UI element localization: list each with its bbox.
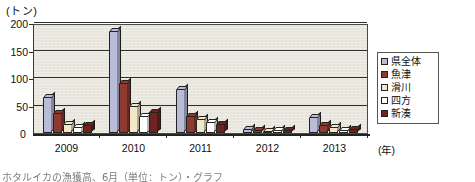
legend-item-四方[interactable]: 四方 — [381, 94, 435, 107]
bar-body — [186, 117, 195, 134]
legend-item-魚津[interactable]: 魚津 — [381, 68, 435, 81]
bar-body — [339, 131, 348, 133]
bar-新湊-2010[interactable] — [149, 113, 158, 133]
bar-body — [176, 90, 185, 133]
bar-body — [43, 98, 52, 133]
bar-body — [129, 107, 138, 133]
bar-group-2012 — [234, 25, 301, 133]
bar-四方-2012[interactable] — [273, 131, 282, 133]
bar-body — [139, 117, 148, 134]
x-tick-2011 — [167, 134, 234, 138]
bar-body — [53, 114, 62, 133]
legend-item-県全体[interactable]: 県全体 — [381, 55, 435, 68]
legend-label: 四方 — [391, 96, 411, 106]
bar-滑川-2010[interactable] — [129, 107, 138, 133]
bar-groups — [34, 25, 367, 133]
bar-body — [73, 128, 82, 134]
bar-新湊-2009[interactable] — [83, 126, 92, 133]
y-tick-mark-200 — [29, 24, 33, 25]
bar-body — [63, 125, 72, 133]
legend-item-滑川[interactable]: 滑川 — [381, 81, 435, 94]
legend-swatch-icon — [381, 97, 388, 104]
bar-魚津-2011[interactable] — [186, 117, 195, 134]
x-label-2013: 2013 — [301, 142, 368, 154]
bar-body — [263, 132, 272, 134]
bar-body — [309, 118, 318, 133]
y-tick-mark-50 — [29, 107, 33, 108]
legend-item-新湊[interactable]: 新湊 — [381, 107, 435, 120]
bar-group-2009 — [34, 25, 101, 133]
bar-滑川-2011[interactable] — [196, 120, 205, 133]
bar-body — [283, 131, 292, 133]
bar-新湊-2012[interactable] — [283, 131, 292, 133]
y-tick-label-100: 100 — [10, 73, 28, 85]
chart-screenshot: (トン) 50100150200 0 20092010201120122013 … — [0, 0, 475, 182]
bar-新湊-2011[interactable] — [216, 125, 225, 133]
bar-body — [196, 120, 205, 133]
bar-body — [329, 128, 338, 133]
x-label-2012: 2012 — [234, 142, 301, 154]
legend: 県全体魚津滑川四方新湊 — [377, 52, 439, 124]
bar-body — [206, 123, 215, 133]
legend-swatch-icon — [381, 110, 388, 117]
bar-body — [253, 131, 262, 133]
figure-caption: ホタルイカの漁獲高、6月（単位：トン）・グラフ — [2, 169, 223, 182]
y-tick-label-150: 150 — [10, 46, 28, 58]
y-axis-zero-label: 0 — [20, 128, 26, 140]
bar-県全体-2009[interactable] — [43, 98, 52, 133]
bar-新湊-2013[interactable] — [349, 130, 358, 133]
x-axis-labels: 20092010201120122013 — [33, 142, 368, 154]
bar-body — [149, 113, 158, 133]
bar-魚津-2009[interactable] — [53, 114, 62, 133]
plot-area — [33, 24, 368, 134]
x-tick-2009 — [33, 134, 100, 138]
x-label-2011: 2011 — [167, 142, 234, 154]
y-tick-label-200: 200 — [10, 18, 28, 30]
legend-label: 魚津 — [391, 70, 411, 80]
bar-group-2011 — [167, 25, 234, 133]
legend-swatch-icon — [381, 84, 388, 91]
bar-四方-2009[interactable] — [73, 128, 82, 134]
y-axis-line — [33, 24, 34, 134]
legend-swatch-icon — [381, 71, 388, 78]
bar-四方-2013[interactable] — [339, 131, 348, 133]
bar-魚津-2013[interactable] — [319, 126, 328, 133]
y-tick-mark-100 — [29, 79, 33, 80]
bar-魚津-2010[interactable] — [119, 84, 128, 134]
bar-県全体-2013[interactable] — [309, 118, 318, 133]
gridline-200 — [34, 22, 367, 23]
bar-body — [109, 32, 118, 133]
bar-県全体-2012[interactable] — [243, 130, 252, 133]
bar-group-2010 — [101, 25, 168, 133]
bar-body — [273, 131, 282, 133]
bar-四方-2011[interactable] — [206, 123, 215, 133]
x-tick-2012 — [234, 134, 301, 138]
y-axis-unit-label: (トン) — [6, 2, 37, 18]
bar-body — [319, 126, 328, 133]
bar-body — [119, 84, 128, 134]
legend-label: 県全体 — [391, 57, 421, 67]
bar-body — [349, 130, 358, 133]
x-axis-tick-marks — [33, 134, 368, 138]
legend-label: 滑川 — [391, 83, 411, 93]
x-label-2010: 2010 — [100, 142, 167, 154]
bar-body — [83, 126, 92, 133]
x-tick-2013 — [301, 134, 368, 138]
bar-group-2013 — [300, 25, 367, 133]
y-tick-label-50: 50 — [16, 101, 28, 113]
bar-滑川-2012[interactable] — [263, 132, 272, 134]
bar-四方-2010[interactable] — [139, 117, 148, 134]
x-tick-2010 — [100, 134, 167, 138]
legend-swatch-icon — [381, 58, 388, 65]
bar-top-face — [283, 127, 295, 131]
bar-body — [216, 125, 225, 133]
bar-県全体-2010[interactable] — [109, 32, 118, 133]
bar-滑川-2009[interactable] — [63, 125, 72, 133]
bar-body — [243, 130, 252, 133]
bar-魚津-2012[interactable] — [253, 131, 262, 133]
bar-滑川-2013[interactable] — [329, 128, 338, 133]
bar-県全体-2011[interactable] — [176, 90, 185, 133]
y-tick-mark-150 — [29, 52, 33, 53]
legend-label: 新湊 — [391, 109, 411, 119]
x-label-2009: 2009 — [33, 142, 100, 154]
